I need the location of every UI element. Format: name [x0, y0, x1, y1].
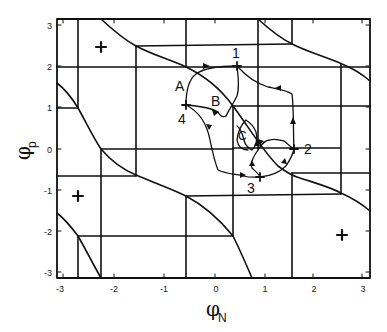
y-tick-label: -1 — [44, 186, 52, 196]
boundary-lines — [57, 19, 370, 278]
y-tick-label: -3 — [44, 268, 52, 278]
y-tick-label: 0 — [47, 145, 52, 155]
point-label-1: 1 — [232, 45, 240, 61]
y-tick-label: -2 — [44, 227, 52, 237]
x-tick-label: 1 — [262, 284, 267, 294]
x-tick-label: -2 — [110, 284, 118, 294]
x-tick-labels: -3 -2 -1 0 1 2 3 — [56, 284, 366, 294]
y-tick-label: 1 — [47, 103, 52, 113]
region-label-b: B — [211, 93, 220, 109]
x-tick-label: -3 — [56, 284, 64, 294]
x-axis-label: φ N — [206, 297, 227, 325]
orbit-markers — [182, 62, 298, 181]
y-tick-label: 3 — [47, 21, 52, 31]
y-axis-subscript: p — [25, 141, 39, 148]
point-label-2: 2 — [304, 141, 312, 157]
trajectory-arrowheads — [203, 63, 296, 178]
x-tick-label: -1 — [160, 284, 168, 294]
point-label-4: 4 — [178, 111, 186, 127]
x-tick-label: 2 — [311, 284, 316, 294]
x-axis-subscript: N — [218, 311, 227, 325]
point-label-3: 3 — [247, 180, 255, 196]
x-tick-label: 0 — [213, 284, 218, 294]
x-tick-label: 3 — [360, 284, 365, 294]
orbit-trajectories — [186, 66, 294, 177]
phase-plane-diagram: -3 -2 -1 0 1 2 3 3 2 1 0 -1 -2 -3 φ N φ … — [0, 0, 387, 332]
y-axis-label: φ p — [11, 141, 39, 160]
y-tick-label: 2 — [47, 62, 52, 72]
y-tick-labels: 3 2 1 0 -1 -2 -3 — [44, 21, 52, 278]
region-label-a: A — [175, 78, 185, 94]
region-label-c: C — [238, 129, 247, 143]
